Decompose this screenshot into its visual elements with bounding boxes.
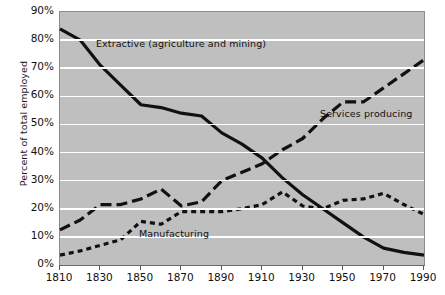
x-tick-label: 1850 [117, 271, 163, 283]
x-tick-label: 1990 [400, 271, 445, 283]
x-tick-label: 1970 [360, 271, 406, 283]
employment-share-line-chart: Percent of total employed 0%10%20%30%40%… [0, 0, 445, 295]
y-tick-label: 40% [18, 146, 54, 157]
series-label-extractive: Extractive (agriculture and mining) [96, 38, 266, 49]
x-tick-label: 1950 [319, 271, 365, 283]
x-axis-tick-labels: 1810183018501870189019101930195019701990 [0, 265, 445, 295]
gridline [60, 180, 424, 182]
series-label-services-producing: Services producing [320, 108, 412, 119]
y-tick-label: 80% [18, 33, 54, 44]
series-lines-layer [60, 12, 424, 265]
series-line-manufacturing [60, 192, 424, 255]
x-tick-label: 1830 [76, 271, 122, 283]
y-tick-label: 30% [18, 174, 54, 185]
x-tick-mark [423, 265, 424, 270]
gridline [60, 96, 424, 98]
x-tick-label: 1910 [238, 271, 284, 283]
gridline [60, 208, 424, 210]
x-tick-mark [342, 265, 343, 270]
gridline [60, 124, 424, 126]
x-tick-mark [140, 265, 141, 270]
y-tick-label: 20% [18, 202, 54, 213]
y-tick-label: 60% [18, 89, 54, 100]
y-tick-label: 50% [18, 117, 54, 128]
x-tick-mark [180, 265, 181, 270]
x-tick-mark [383, 265, 384, 270]
x-tick-mark [99, 265, 100, 270]
x-tick-mark [221, 265, 222, 270]
x-tick-mark [59, 265, 60, 270]
gridline [60, 236, 424, 238]
x-tick-label: 1810 [36, 271, 82, 283]
x-tick-label: 1930 [279, 271, 325, 283]
plot-area [59, 11, 425, 266]
x-tick-label: 1890 [198, 271, 244, 283]
x-tick-mark [302, 265, 303, 270]
gridline [60, 152, 424, 154]
y-tick-label: 90% [18, 5, 54, 16]
gridline [60, 67, 424, 69]
series-line-extractive-agriculture-and-mining [60, 29, 424, 255]
y-tick-label: 70% [18, 61, 54, 72]
series-label-manufacturing: Manufacturing [139, 228, 209, 239]
y-tick-label: 10% [18, 230, 54, 241]
x-tick-mark [261, 265, 262, 270]
x-tick-label: 1870 [157, 271, 203, 283]
y-axis-tick-labels: 0%10%20%30%40%50%60%70%80%90% [16, 0, 54, 295]
